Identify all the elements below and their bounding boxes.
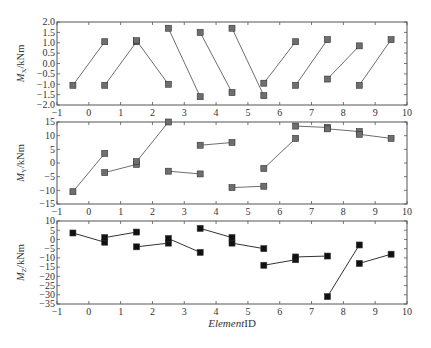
x-tick-label: 2	[150, 206, 155, 217]
square-marker	[356, 131, 362, 137]
segment-line	[73, 153, 105, 191]
x-tick-label: 7	[309, 206, 314, 217]
x-tick-label: 0	[86, 306, 91, 317]
x-tick-label: 0	[86, 107, 91, 118]
x-tick-label: 4	[214, 306, 219, 317]
y-tick-label: −5	[44, 171, 55, 182]
square-marker	[388, 37, 394, 43]
square-marker	[165, 236, 171, 242]
segment-line	[137, 122, 169, 162]
y-tick-label: 0	[50, 157, 55, 168]
figure: −1012345678910−2.0−1.5−1.0−0.50.00.51.01…	[0, 0, 431, 348]
element-segment	[261, 39, 299, 87]
y-tick-label: 0.0	[43, 58, 56, 69]
x-tick-label: 9	[373, 306, 378, 317]
square-marker	[293, 123, 299, 129]
my-plot-frame	[57, 122, 407, 204]
x-tick-label: 6	[277, 206, 282, 217]
segment-line	[264, 138, 296, 168]
x-tick-label: 8	[341, 107, 346, 118]
x-tick-label: 3	[182, 206, 187, 217]
x-tick-label: 1	[118, 206, 123, 217]
y-tick-label: 1.0	[43, 37, 56, 48]
square-marker	[229, 235, 235, 241]
element-segment	[293, 253, 331, 260]
segment-line	[327, 245, 359, 297]
square-marker	[356, 43, 362, 49]
x-tick-label: 7	[309, 107, 314, 118]
x-tick-label: 7	[309, 306, 314, 317]
element-segment	[197, 29, 235, 95]
square-marker	[197, 94, 203, 100]
square-marker	[134, 244, 140, 250]
x-tick-label: 1	[118, 107, 123, 118]
x-tick-label: 5	[245, 206, 250, 217]
element-segment	[229, 183, 267, 190]
element-segment	[102, 229, 140, 241]
element-segment	[324, 43, 362, 82]
mz-plot-frame	[57, 221, 407, 304]
segment-line	[359, 40, 391, 86]
x-tick-label: 0	[86, 206, 91, 217]
square-marker	[356, 82, 362, 88]
square-marker	[102, 39, 108, 45]
element-segment	[165, 168, 203, 177]
segment-line	[264, 260, 296, 266]
square-marker	[70, 82, 76, 88]
element-segment	[356, 131, 394, 141]
square-marker	[134, 38, 140, 44]
element-segment	[70, 39, 108, 89]
y-tick-label: −1.5	[37, 89, 55, 100]
square-marker	[261, 93, 267, 99]
segment-line	[359, 134, 391, 138]
x-tick-label: 8	[341, 206, 346, 217]
square-marker	[102, 170, 108, 176]
square-marker	[197, 171, 203, 177]
y-tick-label: 10	[45, 215, 55, 226]
y-tick-label: −1.0	[37, 79, 55, 90]
segment-line	[105, 232, 137, 238]
square-marker	[261, 246, 267, 252]
segment-line	[296, 40, 328, 86]
mz-subplot: −1012345678910−35−30−25−20−15−10−50510MZ…	[15, 215, 412, 317]
segment-line	[264, 42, 296, 84]
segment-line	[105, 164, 137, 172]
y-tick-label: 10	[45, 130, 55, 141]
my-y-axis-label: MY/kNm	[15, 144, 28, 183]
square-marker	[293, 135, 299, 141]
square-marker	[293, 82, 299, 88]
x-tick-label: 4	[214, 107, 219, 118]
segment-line	[73, 42, 105, 86]
y-tick-label: 5	[50, 144, 55, 155]
square-marker	[229, 25, 235, 31]
square-marker	[229, 185, 235, 191]
element-segment	[197, 225, 235, 240]
segment-line	[232, 186, 264, 187]
element-segment	[102, 39, 140, 89]
element-segment	[261, 135, 299, 171]
square-marker	[293, 254, 299, 260]
element-segment	[134, 38, 172, 88]
square-marker	[356, 260, 362, 266]
segment-line	[296, 256, 328, 257]
square-marker	[324, 37, 330, 43]
square-marker	[70, 230, 76, 236]
x-tick-label: 6	[277, 306, 282, 317]
y-tick-label: 1.5	[43, 27, 56, 38]
y-tick-label: −2.0	[37, 99, 55, 110]
square-marker	[134, 159, 140, 165]
square-marker	[102, 150, 108, 156]
square-marker	[165, 119, 171, 125]
segment-line	[327, 129, 359, 132]
segment-line	[359, 254, 391, 263]
square-marker	[356, 242, 362, 248]
element-segment	[197, 140, 235, 149]
square-marker	[324, 76, 330, 82]
square-marker	[324, 294, 330, 300]
square-marker	[388, 251, 394, 257]
y-tick-label: 2.0	[43, 16, 56, 27]
x-tick-label: 3	[182, 107, 187, 118]
x-tick-label: 3	[182, 306, 187, 317]
segment-line	[168, 239, 200, 253]
segment-line	[137, 243, 169, 247]
